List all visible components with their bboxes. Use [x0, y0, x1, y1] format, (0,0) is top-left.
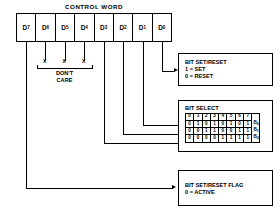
line-d2-drop: [123, 42, 124, 134]
dont-care-mark-1: X: [43, 59, 46, 64]
bit-select-row-label-subscript: 0: [257, 122, 259, 126]
bit-select-value-cell: 1: [235, 135, 243, 142]
bit-select-header-row: 01234567: [186, 113, 260, 120]
register-cell-d2: D2: [114, 14, 133, 41]
bit-select-header-cell: 2: [202, 113, 210, 120]
bit-select-row-label: B2: [252, 135, 259, 142]
arrow-d7: [172, 185, 176, 189]
register-cell-d6: D6: [36, 14, 55, 41]
line-d3-run: [104, 143, 184, 144]
bit-select-header-cell: 3: [210, 113, 218, 120]
bit-select-header-cell: 4: [219, 113, 227, 120]
bit-select-value-cell: 1: [210, 120, 218, 127]
bit-select-header-cell: 6: [235, 113, 243, 120]
bit-set-reset-flag-line1: 0 = ACTIVE: [185, 189, 272, 196]
register-cell-subscript: 6: [47, 25, 50, 30]
bit-select-header-cell: 5: [227, 113, 235, 120]
bit-select-row: 00001111B2: [186, 135, 260, 142]
bit-select-value-cell: 1: [202, 128, 210, 135]
bit-select-value-cell: 1: [244, 128, 252, 135]
bit-set-reset-line1: 1 = SET: [185, 66, 272, 73]
register-cell-subscript: 2: [124, 25, 127, 30]
line-d1-drop: [143, 42, 144, 125]
bit-set-reset-line2: 0 = RESET: [185, 73, 272, 80]
bit-select-value-cell: 0: [186, 128, 194, 135]
bit-select-value-cell: 1: [235, 128, 243, 135]
bit-select-row-label-subscript: 1: [257, 129, 259, 133]
bit-select-value-cell: 0: [202, 135, 210, 142]
register-cell-subscript: 3: [105, 25, 108, 30]
line-d2-run: [123, 134, 184, 135]
register-cell-d7: D7: [17, 14, 36, 41]
line-d7-run: [26, 188, 173, 189]
bit-select-table: 0123456701010101B000110011B100001111B2: [185, 113, 260, 143]
bit-set-reset-title: BIT SET/RESET: [185, 59, 272, 66]
dont-care-bracket-left-tick: [37, 65, 38, 69]
bit-select-row: 01010101B0: [186, 120, 260, 127]
bit-select-row-label-subscript: 2: [257, 136, 259, 140]
bit-select-value-cell: 1: [227, 135, 235, 142]
bit-select-value-cell: 1: [244, 120, 252, 127]
register-cell-d0: D0: [153, 14, 171, 41]
dont-care-mark-3: X: [82, 59, 85, 64]
bit-select-value-cell: 0: [227, 128, 235, 135]
bit-select-value-cell: 0: [194, 128, 202, 135]
register-cell-d5: D5: [56, 14, 75, 41]
bit-select-value-cell: 1: [194, 120, 202, 127]
bit-select-header-cell: 7: [244, 113, 252, 120]
dont-care-label-line2: CARE: [37, 77, 92, 84]
dont-care-bracket-right-tick: [92, 65, 93, 69]
line-d0-run: [162, 71, 174, 72]
bit-select-header-cell: 0: [186, 113, 194, 120]
bit-select-value-cell: 0: [219, 128, 227, 135]
bit-select-value-cell: 0: [186, 135, 194, 142]
bit-select-box: BIT SELECT 0123456701010101B000110011B10…: [178, 100, 273, 152]
register-cell-d4: D4: [75, 14, 94, 41]
bit-select-value-cell: 0: [186, 120, 194, 127]
bit-set-reset-box: BIT SET/RESET 1 = SET 0 = RESET: [178, 53, 273, 86]
dont-care-bracket: [37, 68, 92, 69]
dont-care-mark-2: X: [63, 59, 66, 64]
bit-select-value-cell: 1: [244, 135, 252, 142]
line-d7-drop: [26, 42, 27, 188]
bit-select-value-cell: 1: [219, 135, 227, 142]
register-cell-subscript: 4: [85, 25, 88, 30]
bit-select-header-cell: 1: [194, 113, 202, 120]
line-d3-drop: [104, 42, 105, 143]
bit-select-value-cell: 0: [210, 135, 218, 142]
control-word-register: D7D6D5D4D3D2D1D0: [16, 13, 172, 42]
bit-set-reset-flag-title: BIT SET/RESET FLAG: [185, 182, 272, 189]
register-cell-subscript: 1: [143, 25, 146, 30]
bit-select-value-cell: 1: [210, 128, 218, 135]
control-word-diagram: CONTROL WORD D7D6D5D4D3D2D1D0 X X X DON'…: [0, 0, 280, 213]
bit-select-row: 00110011B1: [186, 128, 260, 135]
diagram-title: CONTROL WORD: [16, 3, 172, 10]
bit-select-value-cell: 0: [219, 120, 227, 127]
bit-select-value-cell: 0: [202, 120, 210, 127]
register-cell-subscript: 7: [27, 25, 30, 30]
bit-select-value-cell: 0: [235, 120, 243, 127]
bit-select-value-cell: 1: [227, 120, 235, 127]
register-cell-d1: D1: [133, 14, 152, 41]
register-cell-subscript: 5: [66, 25, 69, 30]
register-cell-d3: D3: [95, 14, 114, 41]
bit-select-value-cell: 0: [194, 135, 202, 142]
bit-set-reset-flag-box: BIT SET/RESET FLAG 0 = ACTIVE: [178, 170, 273, 206]
bit-select-title: BIT SELECT: [185, 105, 272, 111]
register-cell-subscript: 0: [163, 25, 166, 30]
line-d0-drop: [162, 42, 163, 71]
